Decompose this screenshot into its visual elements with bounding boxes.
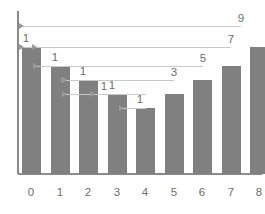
bar-5: [165, 94, 184, 174]
bar-8: [250, 47, 265, 174]
step-gap-label-3: 1: [109, 79, 115, 91]
step-gap-label-0: 1: [23, 32, 29, 44]
bar-top-label-5: 5: [200, 52, 206, 64]
bar-top-label-7: 7: [228, 33, 234, 45]
x-axis-tick-labels-group: 012345678: [28, 186, 262, 198]
step-gap-label-4: 1: [137, 93, 143, 105]
x-tick-label-5: 5: [171, 186, 177, 198]
bar-3: [108, 94, 127, 174]
x-tick-label-3: 3: [114, 186, 120, 198]
chart-canvas: 97531 11111 012345678: [0, 0, 265, 214]
bar-top-label-3: 3: [171, 66, 177, 78]
bar-top-label-9: 9: [238, 12, 244, 24]
bar-7: [222, 66, 241, 174]
bar-1: [51, 66, 70, 174]
bar-6: [193, 80, 212, 174]
x-tick-label-6: 6: [199, 186, 205, 198]
bar-4: [136, 108, 155, 174]
x-tick-label-2: 2: [85, 186, 91, 198]
x-tick-label-0: 0: [28, 186, 34, 198]
x-tick-label-4: 4: [142, 186, 149, 198]
step-gap-label-1: 1: [52, 51, 58, 63]
x-tick-label-7: 7: [228, 186, 234, 198]
bar-top-label-1: 1: [101, 80, 107, 92]
step-gap-label-2: 1: [80, 65, 86, 77]
bar-chart-figure: 97531 11111 012345678: [0, 0, 265, 214]
x-tick-label-8: 8: [256, 186, 262, 198]
x-tick-label-1: 1: [57, 186, 63, 198]
